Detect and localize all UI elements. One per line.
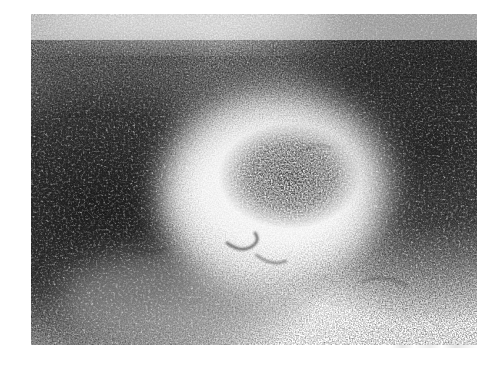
page-canvas (0, 0, 504, 368)
histology-micrograph (31, 14, 477, 345)
micrograph-raster (31, 14, 477, 345)
scan-vignette (31, 14, 477, 345)
